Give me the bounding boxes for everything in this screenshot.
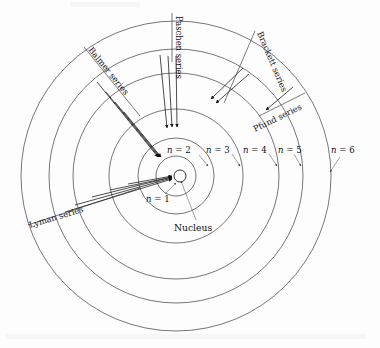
leader-n1 (165, 183, 176, 194)
label-n6: n = 6 (331, 145, 355, 155)
transition-lyman-4 (110, 177, 172, 190)
brackett-series-rule (224, 31, 255, 103)
label-n5: n = 5 (278, 145, 302, 155)
balmer-series-transitions (97, 82, 161, 157)
leader-n6 (330, 157, 340, 172)
label-n4: n = 4 (243, 145, 267, 155)
transition-paschen-2 (168, 56, 172, 127)
lyman-series-label: Lyman series (28, 204, 85, 230)
nucleus-circle (174, 170, 186, 182)
bohr-model-diagram: Lyman series Balmer series Paschen serie… (0, 0, 380, 348)
bohr-model-canvas: Lyman series Balmer series Paschen serie… (0, 0, 380, 348)
transition-balmer-3 (115, 102, 160, 157)
nucleus-label: Nucleus (174, 222, 212, 233)
label-n1: n = 1 (146, 194, 170, 204)
label-n2: n = 2 (167, 145, 191, 155)
paschen-series-label: Paschen series (174, 16, 184, 79)
transition-balmer-4 (124, 112, 161, 157)
leader-n2 (199, 155, 208, 166)
leader-n5 (294, 154, 301, 166)
leader-nucleus (181, 181, 196, 220)
balmer-series-label: Balmer series (86, 45, 131, 97)
leader-n3 (232, 154, 240, 166)
transition-balmer-2 (106, 92, 159, 157)
brackett-series-label: Brackett series (255, 30, 289, 93)
label-n3: n = 3 (206, 145, 230, 155)
transition-paschen-1 (160, 55, 167, 128)
leader-n4 (269, 154, 277, 166)
